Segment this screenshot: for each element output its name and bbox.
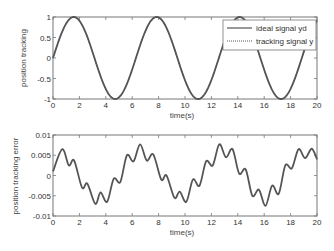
x-tick-label: 0 (51, 218, 56, 227)
x-tick-label: 20 (313, 101, 322, 110)
y-tick-label: -0.5 (37, 75, 51, 84)
x-tick-label: 12 (207, 218, 216, 227)
x-tick-label: 2 (77, 101, 82, 110)
y-tick-label: 0.005 (31, 151, 52, 160)
x-tick-label: 2 (77, 218, 82, 227)
x-tick-label: 20 (313, 218, 322, 227)
y-tick-label: 1 (47, 13, 52, 22)
x-tick-label: 8 (156, 101, 161, 110)
y-tick-label: 0.01 (35, 131, 51, 140)
x-tick-label: 14 (233, 218, 242, 227)
x-tick-label: 4 (104, 218, 109, 227)
bottom-plot: 02468101214161820-0.01-0.00500.0050.01 t… (11, 131, 322, 237)
x-tick-label: 18 (286, 101, 295, 110)
y-tick-label: 0.5 (40, 34, 52, 43)
figure: 02468101214161820-1-0.500.51 time(s) pos… (0, 0, 334, 251)
top-ylabel: position tracking (19, 29, 28, 87)
bottom-axes-box (53, 135, 317, 216)
x-tick-label: 6 (130, 101, 135, 110)
y-tick-label: 0 (47, 172, 52, 181)
x-tick-label: 4 (104, 101, 109, 110)
x-tick-label: 16 (260, 218, 269, 227)
x-tick-label: 16 (260, 101, 269, 110)
bottom-ylabel: position tracking error (11, 137, 20, 214)
bottom-xlabel: time(s) (170, 228, 195, 237)
legend-tracking-label: tracking signal y (256, 37, 313, 46)
y-tick-label: -1 (44, 95, 52, 104)
y-tick-label: 0 (47, 54, 52, 63)
x-tick-label: 14 (233, 101, 242, 110)
top-plot: 02468101214161820-1-0.500.51 time(s) pos… (19, 13, 322, 120)
x-tick-label: 18 (286, 218, 295, 227)
y-tick-label: -0.005 (28, 192, 51, 201)
x-tick-label: 12 (207, 101, 216, 110)
legend: ideal signal yd tracking signal y (223, 20, 316, 50)
x-tick-label: 8 (156, 218, 161, 227)
x-tick-label: 0 (51, 101, 56, 110)
legend-ideal-label: ideal signal yd (256, 24, 307, 33)
x-tick-label: 10 (181, 101, 190, 110)
top-xlabel: time(s) (170, 111, 195, 120)
y-tick-label: -0.01 (33, 212, 52, 221)
x-tick-label: 10 (181, 218, 190, 227)
x-tick-label: 6 (130, 218, 135, 227)
